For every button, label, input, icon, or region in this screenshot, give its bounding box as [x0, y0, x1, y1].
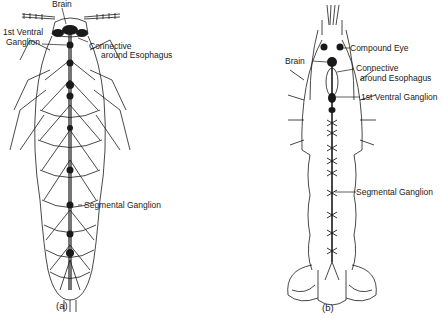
label-b-connective-line1: Connective [356, 64, 399, 73]
caption-b: (b) [322, 302, 334, 313]
label-a-first-ventral-line1: 1st Ventral [3, 28, 43, 37]
label-b-brain: Brain [285, 57, 305, 66]
label-b-connective-line2: around Esophagus [360, 74, 431, 83]
figure-a-ganglia [52, 25, 88, 257]
label-b-segmental-ganglion: Segmental Ganglion [356, 188, 433, 197]
figure-a-leaders [42, 8, 88, 205]
label-a-connective-line2: around Esophagus [101, 51, 172, 60]
label-a-segmental-ganglion: Segmental Ganglion [84, 201, 161, 210]
label-a-brain: Brain [52, 0, 72, 9]
label-b-compound-eye: Compound Eye [350, 44, 409, 53]
caption-a: (a) [56, 300, 68, 311]
label-b-first-ventral-ganglion: 1st Ventral Ganglion [361, 93, 438, 102]
label-a-first-ventral-line2: Ganglion [6, 38, 40, 47]
